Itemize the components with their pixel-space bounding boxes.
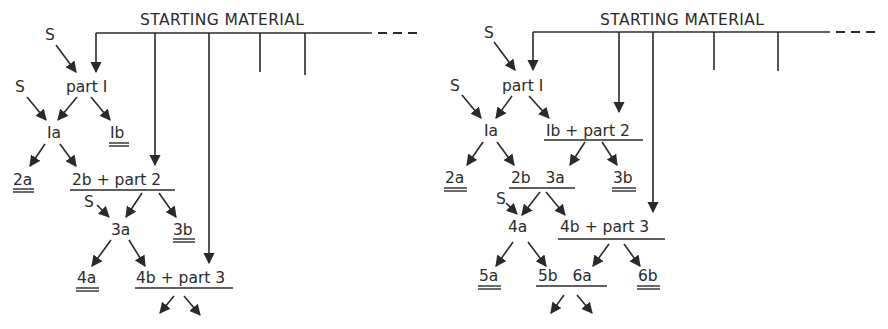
node-4a: 4a: [508, 218, 527, 236]
arrow-continue-left: [551, 295, 564, 313]
node-2a: 2a: [445, 169, 464, 187]
arrow-part1-to-1a: [496, 96, 512, 118]
arrow-2b3a-to-4b: [546, 192, 565, 215]
node-1b-plus-part2: Ib + part 2: [546, 122, 630, 140]
node-5a: 5a: [479, 267, 498, 285]
arrow-4b-to-6a: [593, 244, 609, 266]
node-3b: 3b: [613, 169, 633, 187]
node-part1: part I: [66, 78, 107, 96]
reaction-scheme-figure: STARTING MATERIAL S part I S Ia Ib 2a 2b…: [0, 0, 888, 329]
reagent-s: S: [15, 78, 25, 96]
node-2a: 2a: [13, 171, 32, 189]
arrow-part1-to-1a: [58, 97, 77, 120]
node-3a: 3a: [111, 221, 130, 239]
arrow-s-to-1a: [27, 97, 46, 120]
scheme-right: STARTING MATERIAL S part I S Ia Ib + par…: [444, 11, 880, 313]
arrow-part1-to-1b: [529, 96, 549, 118]
reagent-s: S: [484, 24, 494, 42]
arrow-continue-right: [184, 296, 200, 315]
reagent-s: S: [450, 77, 460, 95]
arrow-s-to-3a: [97, 205, 109, 217]
node-1b: Ib: [110, 124, 124, 142]
arrow-1b-to-3a: [570, 142, 585, 165]
node-4b-plus-part3: 4b + part 3: [136, 269, 225, 287]
arrow-2b-to-3b: [159, 193, 176, 217]
node-1a: Ia: [484, 122, 498, 140]
arrow-4b-to-6b: [624, 244, 640, 266]
arrow-s-to-4a: [506, 203, 517, 214]
arrow-1b-to-3b: [602, 142, 617, 165]
arrow-3a-to-4b: [129, 240, 145, 266]
node-2b-plus-part2: 2b + part 2: [72, 171, 161, 189]
starting-material-header: STARTING MATERIAL: [600, 11, 764, 29]
arrow-part1-to-1b: [91, 97, 110, 120]
node-4b-plus-part3: 4b + part 3: [560, 218, 649, 236]
arrow-continue-left: [160, 296, 174, 313]
arrow-3a-to-4a: [92, 240, 111, 266]
arrow-1a-to-2b: [497, 142, 514, 165]
reagent-s: S: [496, 190, 506, 208]
node-6b: 6b: [638, 267, 658, 285]
node-5b-6a: 5b 6a: [538, 267, 592, 285]
arrow-1a-to-2a: [30, 144, 45, 166]
node-3b: 3b: [173, 221, 193, 239]
reagent-s: S: [45, 26, 55, 44]
starting-material-header: STARTING MATERIAL: [140, 11, 304, 29]
node-2b-3a: 2b 3a: [511, 169, 565, 187]
node-1a: Ia: [47, 124, 61, 142]
arrow-2b-to-3a: [126, 193, 142, 217]
arrow-s-to-part1: [494, 42, 515, 70]
arrow-2b3a-to-4a: [522, 192, 540, 215]
scheme-left: STARTING MATERIAL S part I S Ia Ib 2a 2b…: [13, 11, 418, 315]
arrow-continue-right: [577, 295, 592, 313]
reagent-s: S: [84, 193, 94, 211]
node-4a: 4a: [77, 269, 96, 287]
arrow-1a-to-2b: [60, 144, 76, 166]
arrow-s-to-part1: [56, 45, 76, 72]
arrow-1a-to-2a: [467, 142, 483, 165]
node-part1: part I: [502, 77, 543, 95]
arrow-4a-to-5a: [496, 242, 513, 266]
arrow-4a-to-5b: [528, 242, 546, 266]
arrow-s-to-1a: [462, 95, 481, 118]
